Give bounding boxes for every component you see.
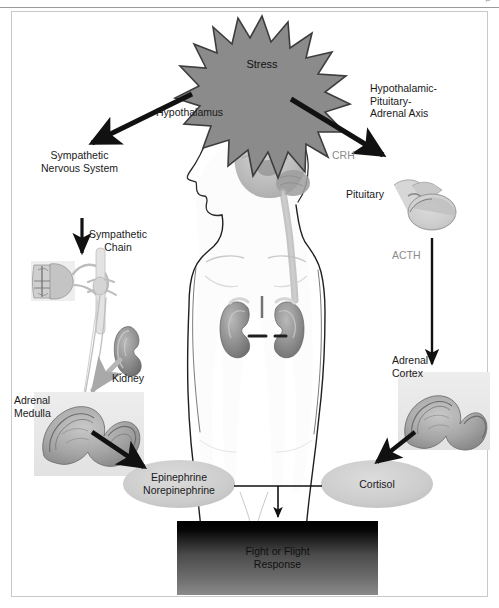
- adrenal-cortex-label: Adrenal Cortex: [392, 354, 428, 379]
- diagram-page: ⌐: [0, 0, 499, 608]
- hpa-axis-label: Hypothalamic- Pituitary- Adrenal Axis: [370, 82, 437, 120]
- outcome-box-shape: [177, 521, 378, 595]
- catecholamines-node-shape: [123, 460, 235, 508]
- sympathetic-nervous-system-label: Sympathetic Nervous System: [22, 149, 137, 174]
- kidney-label: Kidney: [112, 372, 144, 385]
- stress-node-label: Stress: [232, 58, 292, 70]
- adrenal-cortex-illustration: [398, 372, 490, 450]
- sympathetic-chain-label: Sympathetic Chain: [82, 228, 154, 253]
- pituitary-label: Pituitary: [346, 188, 384, 201]
- arrow-stress-to-sympathetic: [92, 94, 192, 143]
- cortisol-node-shape: [321, 460, 433, 508]
- pituitary-illustration: [394, 180, 456, 230]
- crh-label: CRH: [332, 149, 355, 162]
- hypothalamus-label: Hypothalamus: [156, 106, 223, 119]
- acth-label: ACTH: [392, 249, 421, 262]
- adrenal-medulla-label: Adrenal Medulla: [14, 394, 51, 419]
